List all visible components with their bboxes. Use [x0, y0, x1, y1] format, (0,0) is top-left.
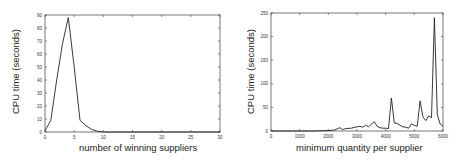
y-tick-label: 0	[39, 130, 42, 135]
plot-frame	[45, 15, 220, 132]
y-tick-label: 50	[263, 105, 269, 110]
x-axis-title: minimum quantity per supplier	[296, 142, 423, 153]
y-tick-label: 40	[37, 78, 43, 83]
y-tick-label: 10	[37, 117, 43, 122]
y-tick-label: 200	[260, 34, 268, 39]
y-tick-label: 60	[37, 52, 43, 57]
data-line	[271, 18, 443, 131]
y-axis-title: CPU time (seconds)	[10, 27, 21, 117]
y-tick-label: 50	[37, 65, 43, 70]
chart-winning-suppliers: 0510152025300102030405060708090 CPU time…	[0, 0, 233, 163]
y-tick-label: 20	[37, 104, 43, 109]
x-tick-label: 20	[159, 135, 165, 140]
chart-min-quantity: 0100020003000400050006000050100150200250…	[233, 0, 466, 163]
y-tick-label: 90	[37, 13, 43, 18]
x-tick-label: 2000	[323, 134, 334, 139]
y-tick-label: 100	[260, 81, 268, 86]
x-tick-label: 0	[270, 134, 273, 139]
x-tick-label: 10	[101, 135, 107, 140]
x-tick-label: 25	[188, 135, 194, 140]
x-tick-label: 30	[217, 135, 223, 140]
x-tick-label: 1000	[295, 134, 306, 139]
y-tick-label: 0	[265, 129, 268, 134]
x-tick-label: 6000	[438, 134, 449, 139]
x-tick-label: 3000	[352, 134, 363, 139]
y-tick-label: 30	[37, 91, 43, 96]
y-tick-label: 80	[37, 26, 43, 31]
y-axis-title: CPU time (seconds)	[245, 27, 256, 117]
x-tick-label: 4000	[381, 134, 392, 139]
x-tick-label: 0	[44, 135, 47, 140]
x-tick-label: 15	[130, 135, 136, 140]
x-tick-label: 5	[73, 135, 76, 140]
plot-area: 0100020003000400050006000050100150200250	[233, 0, 467, 163]
x-axis-title: number of winning suppliers	[79, 142, 197, 153]
y-tick-label: 150	[260, 58, 268, 63]
plot-frame	[271, 13, 443, 131]
y-tick-label: 250	[260, 11, 268, 16]
x-tick-label: 5000	[409, 134, 420, 139]
plot-area: 0510152025300102030405060708090	[0, 0, 233, 163]
data-line	[45, 18, 220, 132]
y-tick-label: 70	[37, 39, 43, 44]
